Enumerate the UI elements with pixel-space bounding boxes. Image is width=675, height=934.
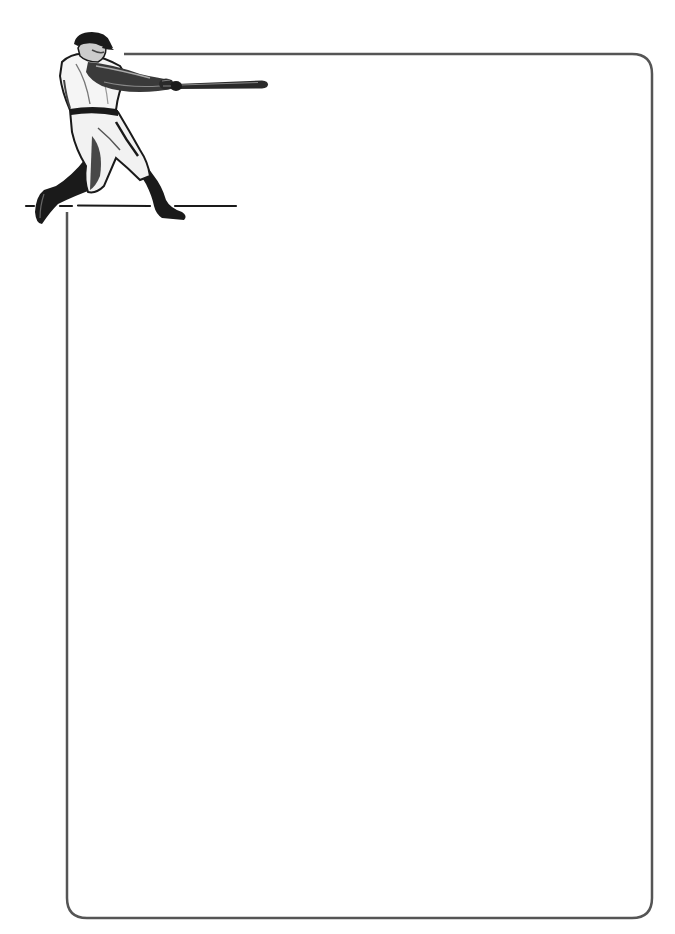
stationery-page bbox=[0, 0, 675, 934]
writing-area bbox=[75, 235, 645, 910]
baseball-batter-icon bbox=[20, 28, 275, 228]
